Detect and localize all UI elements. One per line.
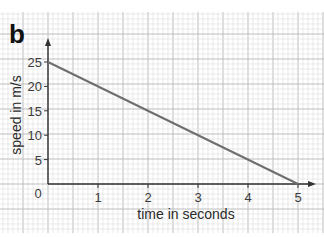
speed-time-chart: b 510152025 12345 0 time in seconds spee… bbox=[0, 0, 324, 237]
x-tick-label: 3 bbox=[194, 190, 201, 205]
x-axis-label: time in seconds bbox=[137, 206, 234, 222]
y-tick-label: 20 bbox=[28, 79, 42, 94]
panel-label: b bbox=[9, 19, 25, 49]
y-tick-label: 10 bbox=[28, 128, 42, 143]
origin-label: 0 bbox=[34, 186, 41, 201]
y-axis-label: speed in m/s bbox=[8, 75, 24, 154]
x-tick-label: 4 bbox=[244, 190, 251, 205]
y-tick-label: 25 bbox=[28, 55, 42, 70]
x-tick-label: 1 bbox=[94, 190, 101, 205]
y-tick-label: 15 bbox=[28, 104, 42, 119]
x-tick-label: 2 bbox=[144, 190, 151, 205]
x-axis-ticks: 12345 bbox=[94, 184, 301, 205]
axes bbox=[45, 38, 316, 187]
y-tick-label: 5 bbox=[35, 153, 42, 168]
x-tick-label: 5 bbox=[294, 190, 301, 205]
